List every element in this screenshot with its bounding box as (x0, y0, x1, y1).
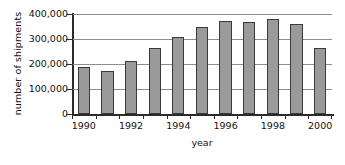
bar (172, 37, 184, 115)
x-tick-mark (214, 114, 215, 119)
y-tick-mark (66, 114, 73, 115)
bar (149, 48, 161, 114)
x-tick-mark (143, 114, 144, 119)
x-tick-mark (308, 114, 309, 119)
bar (243, 22, 255, 114)
y-tick-label: 100,000 (29, 84, 68, 94)
y-tick-label: 200,000 (29, 59, 68, 69)
x-tick-label: 1998 (261, 120, 285, 132)
x-tick-mark (331, 114, 332, 119)
x-tick-label: 1996 (214, 120, 238, 132)
y-tick-mark (66, 39, 73, 40)
x-tick-label: 2000 (308, 120, 332, 132)
x-tick-mark (190, 114, 191, 119)
y-tick-mark (66, 89, 73, 90)
x-tick-mark (237, 114, 238, 119)
shipments-bar-chart: number of shipments 0100,000200,000300,0… (0, 0, 345, 165)
bar (314, 48, 326, 114)
plot-area (72, 14, 332, 114)
x-tick-mark (119, 114, 120, 119)
x-axis-tick-labels: 199019921994199619982000 (72, 120, 332, 134)
y-tick-label: 400,000 (29, 9, 68, 19)
bar (267, 19, 279, 115)
x-axis-title: year (72, 137, 332, 148)
bars-layer (72, 14, 332, 114)
x-tick-label: 1994 (166, 120, 190, 132)
y-axis-tick-labels: 0100,000200,000300,000400,000 (16, 14, 68, 114)
bar (101, 71, 113, 114)
x-tick-mark (167, 114, 168, 119)
y-tick-mark (66, 64, 73, 65)
y-tick-mark (66, 14, 73, 15)
bar (78, 67, 90, 115)
x-tick-mark (261, 114, 262, 119)
bar (125, 61, 137, 114)
bar (290, 24, 302, 114)
y-tick-label: 300,000 (29, 34, 68, 44)
bar (196, 27, 208, 114)
x-tick-label: 1990 (72, 120, 96, 132)
bar (219, 21, 231, 114)
x-tick-label: 1992 (119, 120, 143, 132)
x-tick-mark (285, 114, 286, 119)
x-tick-mark (96, 114, 97, 119)
